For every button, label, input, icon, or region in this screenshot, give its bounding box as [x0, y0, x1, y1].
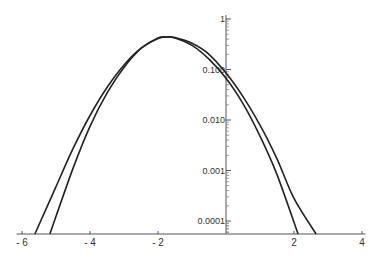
chart: - 6- 4- 224 10.1000.0100.0010.0001 — [0, 0, 383, 257]
x-tick-label: 4 — [359, 237, 365, 248]
x-tick-label: - 2 — [152, 237, 164, 248]
x-tick-label: 2 — [291, 237, 297, 248]
x-tick-label: - 4 — [84, 237, 96, 248]
series-line-curve-a — [35, 37, 298, 234]
x-axis: - 6- 4- 224 — [16, 231, 365, 248]
y-tick-label: 1 — [220, 14, 225, 24]
series-line-curve-b — [50, 37, 316, 234]
y-tick-label: 0.001 — [202, 166, 225, 176]
y-tick-label: 0.0001 — [197, 216, 225, 226]
y-tick-label: 0.010 — [202, 115, 225, 125]
y-axis: 10.1000.0100.0010.0001 — [197, 14, 231, 234]
x-tick-label: - 6 — [16, 237, 28, 248]
series-layer — [35, 37, 316, 234]
